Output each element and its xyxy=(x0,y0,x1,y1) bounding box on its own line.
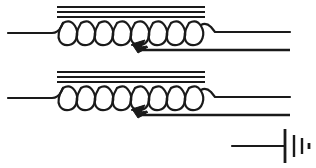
coil-loop xyxy=(149,21,168,45)
coil-loop xyxy=(149,86,168,110)
core-lines-upper-icon xyxy=(57,7,205,17)
schematic-diagram xyxy=(0,0,316,168)
inductor-2-right-lead-wire xyxy=(201,89,290,97)
coil-loop xyxy=(77,21,96,45)
coil-loop xyxy=(167,86,186,110)
coil-loop xyxy=(95,86,114,110)
coil-loop xyxy=(77,86,96,110)
coil-loop xyxy=(113,21,132,45)
inductor-1-group xyxy=(8,7,290,53)
inductor-1-left-lead-wire xyxy=(8,23,63,33)
inductor-2-group xyxy=(8,72,290,118)
coil-loop xyxy=(113,86,132,110)
inductor-2-coil-winding xyxy=(59,86,204,110)
inductor-2-left-lead-wire xyxy=(8,88,63,98)
coil-loop xyxy=(59,21,78,45)
battery-symbol-icon xyxy=(232,129,309,163)
core-lines-lower-icon xyxy=(57,72,205,82)
coil-loop xyxy=(95,21,114,45)
coil-loop xyxy=(59,86,78,110)
inductor-1-coil-winding xyxy=(59,21,204,45)
coil-loop xyxy=(167,21,186,45)
inductor-1-right-lead-wire xyxy=(201,24,290,32)
schematic-canvas xyxy=(0,0,316,168)
